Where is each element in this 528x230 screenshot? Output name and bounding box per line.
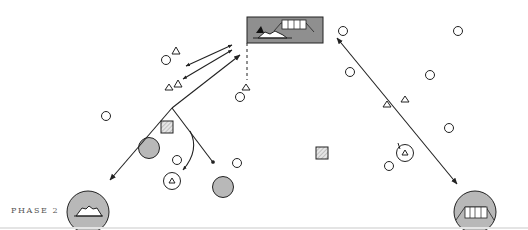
bar-icon <box>465 207 487 218</box>
triangle-icon <box>165 84 173 90</box>
divider <box>0 227 528 229</box>
shaded-circle <box>213 177 234 198</box>
shaded-circle <box>139 138 160 159</box>
arrow <box>172 55 240 108</box>
top-station-box <box>247 17 323 43</box>
triangle-icon <box>242 84 250 90</box>
player-circle <box>346 68 355 77</box>
player-circle <box>445 124 454 133</box>
arrow <box>110 108 172 180</box>
player-circle <box>385 162 394 171</box>
phase-label: PHASE 2 <box>11 206 59 215</box>
player-circle <box>162 56 171 65</box>
player-circle <box>236 93 245 102</box>
triangle-icon <box>174 80 182 87</box>
player-circle <box>426 71 435 80</box>
triangles <box>165 47 409 107</box>
double-arrow <box>186 45 232 66</box>
double-arrow <box>337 38 457 184</box>
player-circle <box>454 27 463 36</box>
player-circle <box>339 27 348 36</box>
triangle-icon <box>401 96 409 102</box>
cone-square <box>316 147 328 159</box>
shaded-circles <box>139 138 234 198</box>
right-goal-circle <box>454 191 496 230</box>
ringed-triangles <box>164 143 414 190</box>
curved-arrow <box>183 131 194 170</box>
play-diagram <box>0 0 528 230</box>
player-circle <box>233 159 242 168</box>
cone-square <box>161 121 173 133</box>
left-goal-circle <box>67 191 109 230</box>
triangle-icon <box>172 47 180 54</box>
player-circle <box>102 112 111 121</box>
player-circle <box>173 156 182 165</box>
